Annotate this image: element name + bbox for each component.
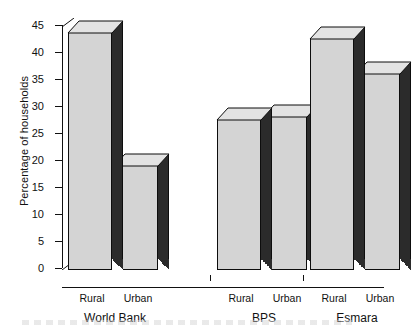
y-tick-label: 10 bbox=[32, 209, 44, 220]
bar-top-face bbox=[68, 21, 112, 32]
x-axis-line bbox=[62, 287, 384, 288]
bar-front-face bbox=[310, 38, 354, 270]
y-tick-35: 35 bbox=[55, 79, 62, 80]
plot-area: 454035302520151050 RuralUrbanWorld BankR… bbox=[62, 18, 384, 270]
y-tick-label: 30 bbox=[32, 101, 44, 112]
bar-esmara-rural bbox=[310, 38, 354, 270]
y-tick-30: 30 bbox=[55, 106, 62, 107]
y-tick-45: 45 bbox=[55, 25, 62, 26]
y-tick-label: 0 bbox=[38, 263, 44, 274]
y-tick-label: 15 bbox=[32, 182, 44, 193]
group-separator-tick bbox=[303, 275, 304, 281]
bar-side-face bbox=[354, 27, 365, 259]
y-tick-0: 0 bbox=[55, 268, 62, 269]
page-text-fragment bbox=[22, 320, 352, 325]
y-tick-40: 40 bbox=[55, 52, 62, 53]
bar-side-face bbox=[112, 21, 123, 259]
bar-side-face bbox=[158, 154, 169, 259]
y-tick-label: 25 bbox=[32, 128, 44, 139]
group-separator-tick bbox=[210, 275, 211, 281]
y-tick-15: 15 bbox=[55, 187, 62, 188]
bar-side-face bbox=[400, 62, 411, 259]
category-label-rural: Rural bbox=[321, 292, 346, 304]
y-tick-20: 20 bbox=[55, 160, 62, 161]
category-label-urban: Urban bbox=[366, 292, 395, 304]
bar-top-face bbox=[310, 27, 354, 38]
y-tick-10: 10 bbox=[55, 214, 62, 215]
y-tick-25: 25 bbox=[55, 133, 62, 134]
bar-front-face bbox=[217, 119, 261, 270]
y-tick-label: 5 bbox=[38, 236, 44, 247]
y-tick-5: 5 bbox=[55, 241, 62, 242]
category-label-urban: Urban bbox=[124, 292, 153, 304]
y-axis-title: Percentage of households bbox=[18, 31, 30, 251]
y-axis-line bbox=[62, 25, 63, 268]
bar-side-face bbox=[261, 108, 272, 259]
category-label-urban: Urban bbox=[273, 292, 302, 304]
bar-front-face bbox=[68, 32, 112, 270]
bar-top-face bbox=[217, 108, 261, 119]
bar-bps-rural bbox=[217, 119, 261, 270]
category-label-rural: Rural bbox=[79, 292, 104, 304]
y-tick-label: 35 bbox=[32, 74, 44, 85]
y-tick-label: 45 bbox=[32, 20, 44, 31]
y-tick-label: 40 bbox=[32, 47, 44, 58]
y-tick-label: 20 bbox=[32, 155, 44, 166]
bar-world-bank-rural bbox=[68, 32, 112, 270]
category-label-rural: Rural bbox=[228, 292, 253, 304]
